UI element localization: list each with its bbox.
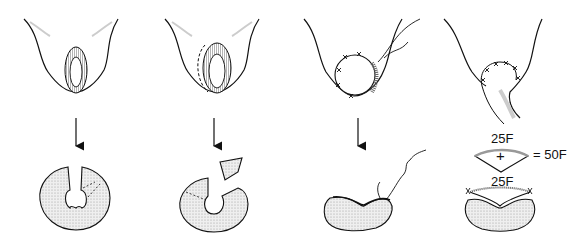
plus-sign: + — [496, 148, 505, 163]
surgical-diagram — [0, 0, 578, 249]
panel-2-bottom — [180, 158, 248, 232]
panel-1-bottom — [40, 167, 110, 230]
graft-upper-label: 25F — [491, 132, 513, 145]
arrows — [76, 118, 358, 146]
panel-4-top — [444, 19, 542, 124]
panel-1-top — [24, 19, 118, 93]
panel-3-bottom — [324, 150, 426, 231]
total-label: = 50F — [533, 148, 567, 161]
panel-3-top — [304, 19, 420, 98]
panel-2-top — [165, 19, 259, 93]
graft-lower-label: 25F — [491, 175, 513, 188]
